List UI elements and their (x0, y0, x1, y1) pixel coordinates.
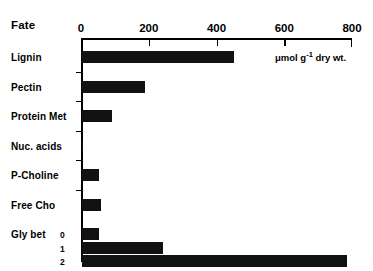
x-axis-tick (81, 38, 83, 47)
y-axis-minor-tick (76, 101, 81, 102)
bar (82, 255, 347, 267)
y-axis-minor-tick (76, 160, 81, 161)
category-label: Free Cho (11, 200, 55, 211)
fate-bar-chart: Fate 0200400600800 μmol g-1 dry wt. Lign… (0, 0, 373, 271)
bar (82, 81, 145, 93)
bar (82, 110, 112, 122)
bar (82, 51, 234, 63)
y-axis-minor-tick (76, 72, 81, 73)
x-axis-tick-label: 800 (342, 22, 361, 34)
category-sub-label: 1 (60, 244, 65, 254)
y-axis-minor-tick (76, 131, 81, 132)
x-axis-tick (351, 38, 353, 47)
plot-area (81, 47, 352, 262)
category-label: Protein Met (11, 111, 67, 122)
y-axis-minor-tick (76, 190, 81, 191)
x-axis-tick-label: 200 (139, 22, 158, 34)
x-axis-tick-label: 400 (207, 22, 226, 34)
bar (82, 199, 101, 211)
x-axis-tick-label: 600 (275, 22, 294, 34)
category-label: P-Choline (11, 170, 59, 181)
category-label: Gly bet (11, 229, 46, 240)
bar (82, 169, 99, 181)
category-label: Lignin (11, 52, 42, 63)
bar (82, 140, 83, 152)
x-axis-tick (284, 38, 286, 46)
bar (82, 228, 99, 240)
x-axis (81, 38, 352, 47)
page-title: Fate (11, 19, 35, 31)
x-axis-tick-label: 0 (78, 22, 84, 34)
category-sub-label: 0 (60, 230, 65, 240)
category-label: Nuc. acids (11, 141, 62, 152)
bar (82, 242, 163, 254)
category-sub-label: 2 (60, 257, 65, 267)
x-axis-tick (217, 38, 219, 46)
x-axis-tick (149, 38, 151, 46)
category-label: Pectin (11, 82, 42, 93)
